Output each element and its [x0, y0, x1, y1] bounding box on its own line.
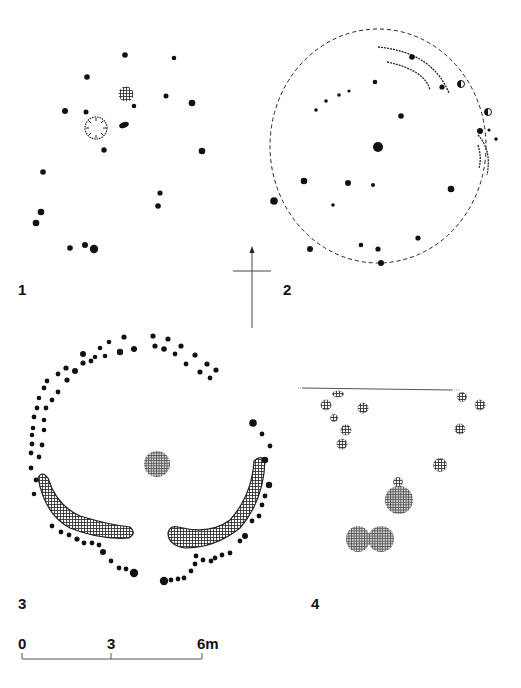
panel-label-1: 1 — [18, 282, 26, 297]
scale-label-0: 0 — [18, 636, 26, 651]
plan-4 — [298, 388, 485, 552]
hatched-pit — [119, 87, 134, 102]
ditch-west — [38, 474, 133, 538]
panel-label-3: 3 — [18, 596, 26, 611]
half-filled-post — [458, 81, 492, 116]
ditch-east — [168, 458, 265, 548]
plan-3 — [29, 333, 273, 585]
scale-label-3: 3 — [107, 636, 115, 651]
scale-bar — [22, 653, 202, 659]
north-arrow-icon — [233, 246, 271, 328]
baseline — [302, 388, 452, 390]
ditch-north — [378, 47, 449, 93]
rosette-pit — [85, 117, 107, 139]
plan-2 — [270, 29, 498, 266]
panel-label-2: 2 — [283, 282, 291, 297]
panel-label-4: 4 — [311, 596, 319, 611]
scale-label-6m: 6m — [197, 636, 219, 651]
central-hatched-pit — [144, 451, 170, 477]
site-plans-figure — [0, 0, 521, 688]
plan-1 — [33, 52, 206, 253]
